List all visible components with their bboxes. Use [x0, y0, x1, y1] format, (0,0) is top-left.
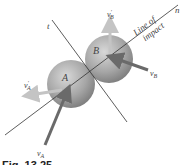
vB-prime-label: v′B	[107, 9, 114, 20]
t-axis-label: t	[47, 21, 50, 31]
collision-diagram: A B t n Line of impact v′B vB v′A vA Fig…	[0, 0, 184, 165]
vA-prime-label: v′A	[24, 80, 31, 91]
sphere-b-label: B	[93, 45, 99, 56]
sphere-a-label: A	[61, 72, 69, 83]
n-axis-label: n	[175, 5, 180, 15]
figure-caption: Fig. 13.25	[2, 159, 52, 165]
vA-label: vA	[37, 149, 45, 159]
vB-label: vB	[150, 69, 158, 79]
